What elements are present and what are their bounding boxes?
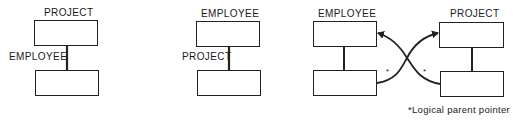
diagram-canvas: PROJECT EMPLOYEE EMPLOYEE PROJECT EMPLOY… [0,0,516,125]
footnote: *Logical parent pointer [408,104,510,115]
logical-pointer-to-employee [378,33,440,84]
